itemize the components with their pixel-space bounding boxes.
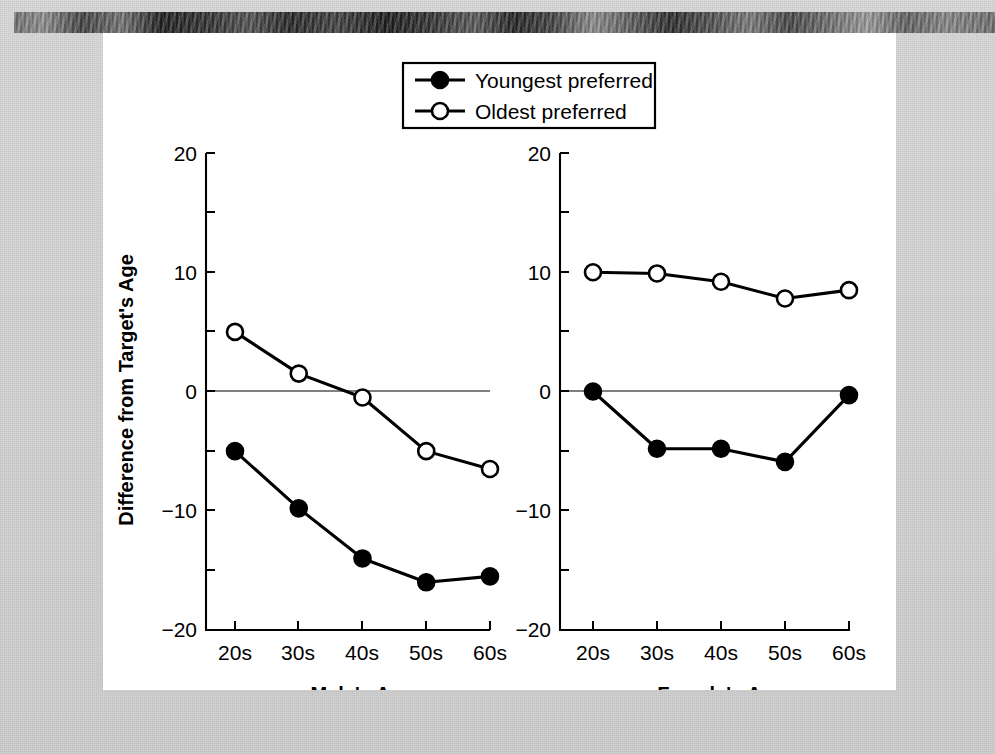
x-tick-label-40s-right: 40s [704, 641, 738, 664]
data-point-youngest-preferred-60s [482, 568, 499, 585]
x-tick-label-60s: 60s [473, 641, 507, 664]
x-tick-label-60s-right: 60s [832, 641, 866, 664]
data-point-oldest-preferred-60s [482, 461, 498, 477]
y-tick-label-10: 10 [174, 261, 197, 284]
y-tick-label-m10-right: −10 [515, 499, 551, 522]
y-tick-label-0: 0 [185, 380, 197, 403]
data-point-oldest-preferred-60s [841, 282, 857, 298]
y-tick-label-0-right: 0 [539, 380, 551, 403]
data-point-youngest-preferred-50s [777, 453, 794, 470]
x-tick-label-50s: 50s [409, 641, 443, 664]
panel-male: 20 10 0 −10 −20 [161, 142, 507, 690]
y-tick-label-10-right: 10 [528, 261, 551, 284]
x-tick-label-30s: 30s [281, 641, 315, 664]
data-point-youngest-preferred-30s [649, 440, 666, 457]
x-tick-label-30s-right: 30s [640, 641, 674, 664]
legend-label-youngest: Youngest preferred [475, 69, 653, 92]
filled-circle-icon [432, 72, 449, 89]
legend-label-oldest: Oldest preferred [475, 100, 627, 123]
y-tick-label-20: 20 [174, 142, 197, 165]
data-point-youngest-preferred-50s [418, 574, 435, 591]
data-point-oldest-preferred-20s [585, 264, 601, 280]
data-point-oldest-preferred-30s [649, 265, 665, 281]
scan-artifact-strip [14, 12, 995, 33]
series-group-left [227, 324, 499, 591]
data-point-oldest-preferred-50s [418, 443, 434, 459]
figure-card: Youngest preferred Oldest preferred Diff… [103, 33, 896, 690]
panel-title-female: Female's Age [657, 683, 784, 690]
panel-title-male: Male's Age [311, 683, 414, 690]
series-group-right [585, 264, 858, 470]
y-tick-label-20-right: 20 [528, 142, 551, 165]
chart-svg: Youngest preferred Oldest preferred Diff… [103, 33, 896, 690]
data-point-oldest-preferred-30s [291, 366, 307, 382]
data-point-oldest-preferred-20s [227, 324, 243, 340]
chart-legend: Youngest preferred Oldest preferred [403, 63, 655, 128]
x-tick-label-20s: 20s [218, 641, 252, 664]
y-axis-title: Difference from Target's Age [115, 254, 137, 525]
y-tick-label-m10: −10 [161, 499, 197, 522]
data-point-youngest-preferred-40s [354, 550, 371, 567]
y-axis-title-text: Difference from Target's Age [115, 254, 137, 525]
data-point-youngest-preferred-60s [841, 387, 858, 404]
x-tick-label-20s-right: 20s [576, 641, 610, 664]
data-point-youngest-preferred-20s [227, 443, 244, 460]
y-tick-label-m20-right: −20 [515, 618, 551, 641]
data-point-oldest-preferred-40s [713, 274, 729, 290]
data-point-youngest-preferred-40s [713, 440, 730, 457]
data-point-oldest-preferred-50s [777, 290, 793, 306]
open-circle-icon [432, 103, 448, 119]
data-point-oldest-preferred-40s [355, 389, 371, 405]
data-point-youngest-preferred-30s [290, 500, 307, 517]
y-tick-label-m20: −20 [161, 618, 197, 641]
data-point-youngest-preferred-20s [585, 383, 602, 400]
x-tick-label-40s: 40s [345, 641, 379, 664]
x-tick-label-50s-right: 50s [768, 641, 802, 664]
panel-female: 20 10 0 −10 −20 [515, 142, 866, 690]
chart-figure: Youngest preferred Oldest preferred Diff… [103, 33, 896, 690]
